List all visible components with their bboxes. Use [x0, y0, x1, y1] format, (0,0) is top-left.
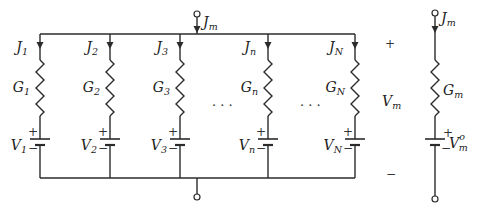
- ellipsis-left: · · ·: [212, 98, 233, 113]
- vm-minus-sign: −: [386, 167, 396, 181]
- battery-minus: −: [98, 141, 108, 155]
- branch-current-label: Jn: [241, 39, 256, 57]
- equivalent-current-label: Jm: [438, 10, 456, 28]
- equivalent-current-arrow-icon: [432, 26, 439, 33]
- branch-current-label: J1: [13, 39, 28, 57]
- battery-plus: +: [28, 125, 38, 139]
- current-arrow-icon: [265, 42, 272, 49]
- resistor-icon: [36, 60, 44, 116]
- branch-voltage-label: V1: [11, 137, 27, 155]
- battery-minus: −: [168, 141, 178, 155]
- branch-2: J2G2+−V2: [81, 34, 120, 178]
- branch-3: J3G3+−V3: [151, 34, 190, 178]
- current-arrow-icon: [37, 42, 44, 49]
- current-arrow-icon: [177, 42, 184, 49]
- terminal-voltage-label: Vm: [382, 93, 401, 111]
- battery-plus: +: [168, 125, 178, 139]
- branch-4: JnGn+−Vn: [239, 34, 278, 178]
- branch-voltage-label: VN: [324, 137, 343, 155]
- circuit-diagram: Jm J1G1+−V1J2G2+−V2J3G3+−V3JnGn+−VnJNGN+…: [0, 0, 478, 214]
- battery-minus: −: [256, 141, 266, 155]
- branch-conductance-label: G3: [153, 79, 170, 97]
- vm-plus-sign: +: [385, 37, 395, 51]
- resistor-icon: [106, 60, 114, 116]
- resistor-icon: [176, 60, 184, 116]
- equivalent-conductance-label: Gm: [443, 82, 463, 100]
- top-terminal: Jm: [194, 11, 218, 34]
- branch-5: JNGN+−VN: [324, 34, 365, 178]
- battery-plus: +: [98, 125, 108, 139]
- resistor-icon: [351, 60, 359, 116]
- branch-conductance-label: Gn: [241, 79, 258, 97]
- battery-minus: −: [343, 141, 353, 155]
- branch-voltage-label: V2: [81, 137, 97, 155]
- branch-current-label: J2: [83, 39, 98, 57]
- equivalent-resistor-icon: [431, 60, 439, 116]
- branch-conductance-label: G1: [13, 79, 30, 97]
- branch-1: J1G1+−V1: [11, 34, 50, 178]
- battery-plus: +: [343, 125, 353, 139]
- resistor-icon: [264, 60, 272, 116]
- input-current-label: Jm: [200, 14, 218, 32]
- branch-current-label: JN: [326, 39, 344, 57]
- battery-plus: +: [256, 125, 266, 139]
- branch-conductance-label: G2: [83, 79, 100, 97]
- equivalent-voltage-label: Vom: [449, 131, 468, 153]
- current-arrow-icon: [352, 42, 359, 49]
- branch-current-label: J3: [153, 39, 168, 57]
- equivalent-branch: Jm Gm + − Vom: [425, 10, 468, 202]
- branch-voltage-label: V3: [151, 137, 167, 155]
- input-current-arrow-icon: [194, 26, 201, 33]
- branch-conductance-label: GN: [326, 79, 346, 97]
- bottom-terminal: [194, 178, 200, 200]
- ellipsis-right: · · ·: [300, 98, 321, 113]
- battery-minus: −: [28, 141, 38, 155]
- branch-voltage-label: Vn: [239, 137, 255, 155]
- current-arrow-icon: [107, 42, 114, 49]
